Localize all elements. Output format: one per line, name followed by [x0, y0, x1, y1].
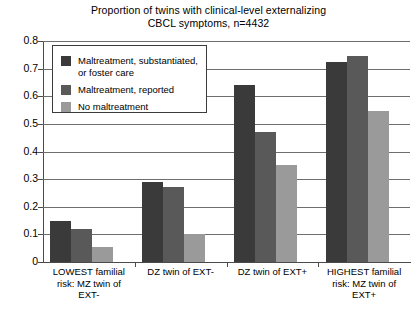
y-tick-label: 0.4 — [4, 146, 38, 157]
x-category-label: DZ twin of EXT- — [135, 266, 227, 278]
bar — [347, 56, 368, 262]
x-category-label: LOWEST familialrisk: MZ twin ofEXT- — [43, 266, 135, 301]
bar — [368, 111, 389, 262]
chart-title-line-2: CBCL symptoms, n=4432 — [0, 17, 417, 30]
x-category-label-line: EXT+ — [318, 289, 410, 301]
y-tick-label: 0 — [4, 256, 38, 267]
bar — [234, 85, 255, 262]
y-tick-label: 0.3 — [4, 173, 38, 184]
y-tick-label: 0.2 — [4, 201, 38, 212]
x-category-label: DZ twin of EXT+ — [227, 266, 319, 278]
x-category-label-line: risk: MZ twin of — [43, 278, 135, 290]
chart-root: Proportion of twins with clinical-level … — [0, 0, 417, 312]
legend-label: No maltreatment — [78, 101, 148, 113]
y-tick-label: 0.1 — [4, 228, 38, 239]
x-category-label-line: DZ twin of EXT+ — [227, 266, 319, 278]
y-axis-labels: 0.80.70.60.50.40.30.20.10 — [0, 0, 38, 312]
legend-item[interactable]: Maltreatment, substantiated, or foster c… — [61, 55, 198, 78]
bar — [142, 182, 163, 262]
legend-label: Maltreatment, reported — [78, 84, 174, 96]
legend-swatch-icon — [61, 85, 71, 95]
bar — [326, 62, 347, 262]
legend-label: Maltreatment, substantiated, or foster c… — [78, 55, 198, 78]
x-category-label-line: DZ twin of EXT- — [135, 266, 227, 278]
bar — [163, 187, 184, 262]
bar — [92, 247, 113, 262]
x-axis-category-labels: LOWEST familialrisk: MZ twin ofEXT-DZ tw… — [43, 266, 410, 312]
x-category-label-line: HIGHEST familial — [318, 266, 410, 278]
chart-legend: Maltreatment, substantiated, or foster c… — [52, 45, 207, 113]
x-category-label-line: LOWEST familial — [43, 266, 135, 278]
bar — [184, 234, 205, 262]
chart-title: Proportion of twins with clinical-level … — [0, 4, 417, 30]
bar — [71, 229, 92, 262]
y-tick-label: 0.6 — [4, 90, 38, 101]
chart-title-line-1: Proportion of twins with clinical-level … — [0, 4, 417, 17]
y-tick-label: 0.5 — [4, 118, 38, 129]
y-tick-label: 0.7 — [4, 63, 38, 74]
legend-swatch-icon — [61, 102, 71, 112]
x-category-label-line: EXT- — [43, 289, 135, 301]
y-tick-label: 0.8 — [4, 35, 38, 46]
bar — [50, 221, 71, 262]
legend-item[interactable]: Maltreatment, reported — [61, 84, 174, 96]
legend-swatch-icon — [61, 56, 71, 66]
bar — [255, 132, 276, 262]
bar — [276, 165, 297, 262]
x-category-label-line: risk: MZ twin of — [318, 278, 410, 290]
legend-item[interactable]: No maltreatment — [61, 101, 148, 113]
x-category-label: HIGHEST familialrisk: MZ twin ofEXT+ — [318, 266, 410, 301]
